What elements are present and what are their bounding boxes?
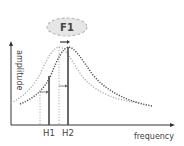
h1-label: H1 bbox=[43, 128, 55, 138]
y-axis-label: amplitude bbox=[15, 50, 24, 91]
frequency-shift-diagram: F1 H1 H2 frequency amplitude bbox=[0, 0, 184, 146]
h2-label: H2 bbox=[62, 128, 74, 138]
x-axis-label: frequency bbox=[134, 132, 174, 141]
shifted-response-curve bbox=[20, 47, 152, 106]
x-axis-arrow-icon bbox=[170, 123, 175, 127]
f1-label: F1 bbox=[60, 22, 74, 33]
y-axis-arrow-icon bbox=[9, 41, 13, 46]
f1-bubble: F1 bbox=[47, 18, 87, 36]
shift-arrow-icon bbox=[60, 40, 70, 44]
h1-shift-arrow-icon bbox=[40, 91, 49, 94]
axes bbox=[9, 41, 175, 127]
h2-shift-arrow-icon bbox=[59, 85, 68, 88]
original-response-curve bbox=[11, 47, 140, 103]
